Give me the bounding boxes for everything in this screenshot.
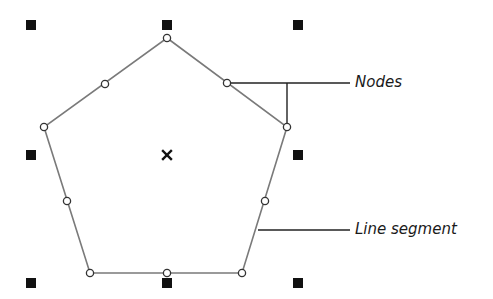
shape-node[interactable] <box>238 269 245 276</box>
shape-node[interactable] <box>261 197 268 204</box>
nodes-leader <box>227 83 350 127</box>
center-x-icon[interactable] <box>163 151 171 159</box>
diagram-canvas: Nodes Line segment <box>0 0 493 299</box>
shape-node[interactable] <box>40 123 47 130</box>
nodes-label: Nodes <box>355 75 402 90</box>
shape-node[interactable] <box>63 197 70 204</box>
shape-node[interactable] <box>223 79 230 86</box>
selection-handle[interactable] <box>293 150 303 160</box>
selection-handle[interactable] <box>26 150 36 160</box>
shape-node[interactable] <box>283 123 290 130</box>
selection-handle[interactable] <box>26 278 36 288</box>
shape-node[interactable] <box>163 269 170 276</box>
selection-handle[interactable] <box>162 20 172 30</box>
line-segment-label: Line segment <box>355 222 457 237</box>
selection-handle[interactable] <box>293 20 303 30</box>
shape-node[interactable] <box>86 269 93 276</box>
shape-node[interactable] <box>101 80 108 87</box>
selection-handle[interactable] <box>293 278 303 288</box>
selection-handle[interactable] <box>162 278 172 288</box>
pentagon-diagram <box>0 0 493 299</box>
shape-node[interactable] <box>163 34 170 41</box>
selection-handle[interactable] <box>26 20 36 30</box>
